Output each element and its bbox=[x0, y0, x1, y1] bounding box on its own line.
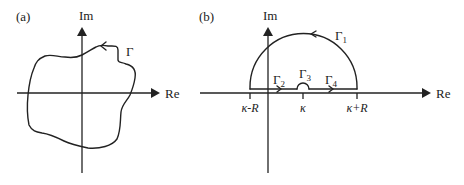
gamma-1-label: Γ1 bbox=[335, 28, 347, 45]
contour-gamma-3 bbox=[297, 83, 309, 89]
imag-axis-arrow-icon bbox=[77, 27, 87, 36]
gamma-2-label: Γ2 bbox=[273, 72, 285, 89]
panel-b: (b) Im Re κ-R κ κ+R Γ1 Γ2 Γ3 Γ4 bbox=[199, 8, 451, 173]
real-axis-label: Re bbox=[165, 86, 180, 101]
tick-label-kappa: κ bbox=[300, 101, 306, 115]
contour-diagram: (a) Im Re Γ (b) Im Re κ-R κ κ+R bbox=[0, 0, 464, 185]
imag-axis-label: Im bbox=[263, 8, 277, 23]
panel-a-label: (a) bbox=[16, 9, 30, 24]
imag-axis-arrow-icon bbox=[263, 27, 273, 36]
tick-label-kappa-plus-r: κ+R bbox=[346, 101, 368, 115]
real-axis-arrow-icon bbox=[422, 88, 431, 98]
contour-gamma-label: Γ bbox=[126, 44, 134, 59]
tick-label-kappa-minus-r: κ-R bbox=[241, 101, 259, 115]
panel-b-label: (b) bbox=[199, 9, 214, 24]
panel-a: (a) Im Re Γ bbox=[16, 8, 180, 173]
real-axis-arrow-icon bbox=[151, 88, 160, 98]
contour-gamma bbox=[27, 45, 135, 148]
real-axis-label: Re bbox=[436, 86, 451, 101]
gamma-3-label: Γ3 bbox=[299, 66, 312, 83]
gamma-4-label: Γ4 bbox=[325, 72, 338, 89]
imag-axis-label: Im bbox=[79, 8, 93, 23]
